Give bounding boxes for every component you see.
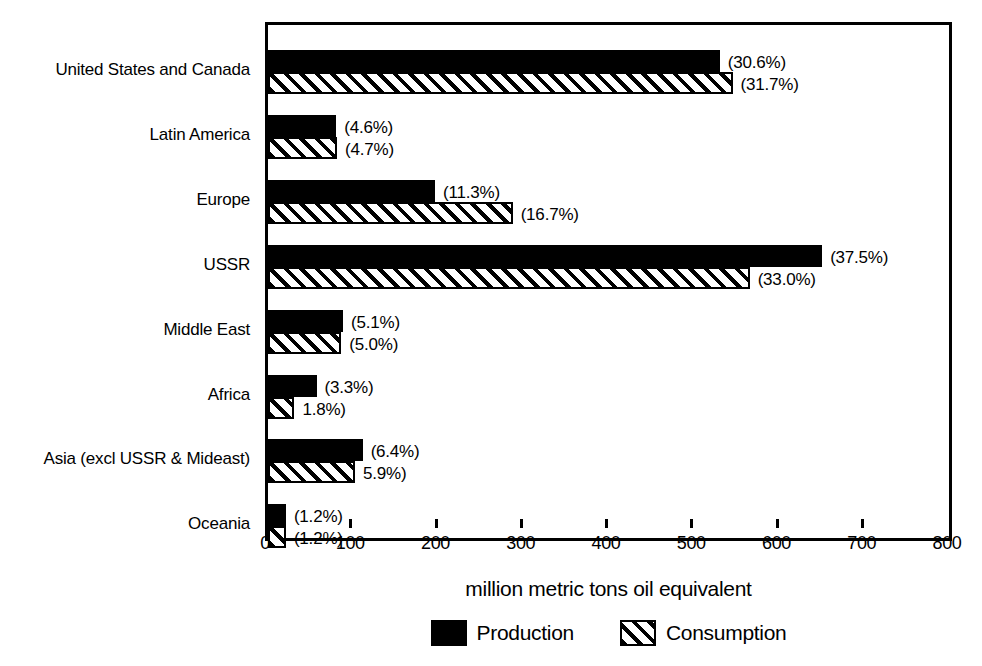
category-label: Middle East xyxy=(163,321,250,338)
bar-production xyxy=(268,375,317,397)
category-label: USSR xyxy=(204,256,250,273)
x-axis-tick xyxy=(605,519,608,528)
bar-consumption xyxy=(268,267,750,289)
legend-item: Production xyxy=(431,620,574,646)
category-label: Latin America xyxy=(150,126,250,143)
legend-swatch-consumption-icon xyxy=(620,620,656,646)
value-label-consumption: 1.8%) xyxy=(302,401,345,418)
legend-label: Production xyxy=(477,621,574,645)
legend-item: Consumption xyxy=(620,620,786,646)
value-label-consumption: (5.0%) xyxy=(349,336,398,353)
chart-legend: ProductionConsumption xyxy=(265,620,952,646)
bar-production xyxy=(268,115,336,137)
category-label: United States and Canada xyxy=(55,61,250,78)
value-label-consumption: 5.9%) xyxy=(363,465,406,482)
x-axis-tick xyxy=(690,519,693,528)
value-label-production: (4.6%) xyxy=(344,119,393,136)
bar-production xyxy=(268,180,435,202)
category-label: Europe xyxy=(196,191,250,208)
x-axis-tick-label: 200 xyxy=(421,533,450,554)
value-label-production: (3.3%) xyxy=(325,379,374,396)
value-label-production: (11.3%) xyxy=(443,184,500,201)
category-label: Oceania xyxy=(188,515,250,532)
bar-production xyxy=(268,50,720,72)
value-label-consumption: (31.7%) xyxy=(741,76,799,93)
legend-label: Consumption xyxy=(666,621,786,645)
bar-production xyxy=(268,504,286,526)
bar-consumption xyxy=(268,202,513,224)
bars-container: (30.6%)(31.7%)(4.6%)(4.7%)(11.3%)(16.7%)… xyxy=(268,25,949,538)
bar-consumption xyxy=(268,332,341,354)
category-label: Africa xyxy=(208,386,250,403)
bar-production xyxy=(268,310,343,332)
x-axis-tick xyxy=(520,519,523,528)
x-axis-tick-label: 500 xyxy=(677,533,706,554)
value-label-production: (5.1%) xyxy=(351,314,400,331)
value-label-consumption: (4.7%) xyxy=(345,141,394,158)
bar-consumption xyxy=(268,526,286,548)
x-axis-tick-label: 700 xyxy=(847,533,876,554)
legend-swatch-production-icon xyxy=(431,620,467,646)
x-axis-tick xyxy=(861,519,864,528)
horizontal-bar-chart: United States and CanadaLatin AmericaEur… xyxy=(0,0,982,666)
value-label-production: (30.6%) xyxy=(728,54,786,71)
x-axis-title: million metric tons oil equivalent xyxy=(265,577,952,601)
bar-consumption xyxy=(268,137,337,159)
category-axis-labels: United States and CanadaLatin AmericaEur… xyxy=(0,22,258,541)
value-label-production: (6.4%) xyxy=(371,443,420,460)
bar-consumption xyxy=(268,397,294,419)
bar-consumption xyxy=(268,72,733,94)
x-axis-tick-label: 600 xyxy=(762,533,791,554)
x-axis-tick-label: 400 xyxy=(591,533,620,554)
value-label-production: (1.2%) xyxy=(294,508,343,525)
x-axis-tick-label: 100 xyxy=(336,533,365,554)
x-axis-tick-label: 0 xyxy=(260,533,270,554)
bar-production xyxy=(268,439,363,461)
x-axis-tick xyxy=(435,519,438,528)
bar-production xyxy=(268,245,822,267)
value-label-consumption: (16.7%) xyxy=(521,206,579,223)
x-axis-tick-label: 300 xyxy=(506,533,535,554)
x-axis-tick xyxy=(776,519,779,528)
plot-area: (30.6%)(31.7%)(4.6%)(4.7%)(11.3%)(16.7%)… xyxy=(265,22,952,541)
category-label: Asia (excl USSR & Mideast) xyxy=(44,450,250,467)
value-label-production: (37.5%) xyxy=(830,249,888,266)
x-axis-tick xyxy=(349,519,352,528)
value-label-consumption: (33.0%) xyxy=(758,271,816,288)
x-axis-tick-label: 800 xyxy=(932,533,961,554)
bar-consumption xyxy=(268,461,355,483)
